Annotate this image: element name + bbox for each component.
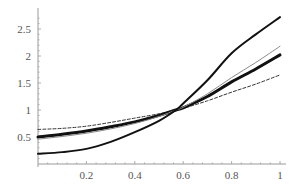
x-tick-label: 0.6 <box>176 169 190 181</box>
line-chart: 0.20.40.60.810.511.522.5 <box>0 0 303 190</box>
curves <box>38 17 280 154</box>
x-tick-label: 0.8 <box>225 169 239 181</box>
tick-labels: 0.20.40.60.810.511.522.5 <box>17 23 283 181</box>
x-tick-label: 0.4 <box>128 169 142 181</box>
x-tick-label: 0.2 <box>80 169 94 181</box>
x-tick-label: 1 <box>277 169 283 181</box>
axes <box>38 8 286 167</box>
y-tick-label: 2 <box>26 50 32 62</box>
y-tick-label: 1.5 <box>17 77 31 89</box>
y-tick-label: 2.5 <box>17 23 31 35</box>
y-tick-label: 0.5 <box>17 131 31 143</box>
curve-thick <box>38 55 280 137</box>
y-tick-label: 1 <box>26 104 32 116</box>
curve-thin-gray <box>38 46 280 139</box>
